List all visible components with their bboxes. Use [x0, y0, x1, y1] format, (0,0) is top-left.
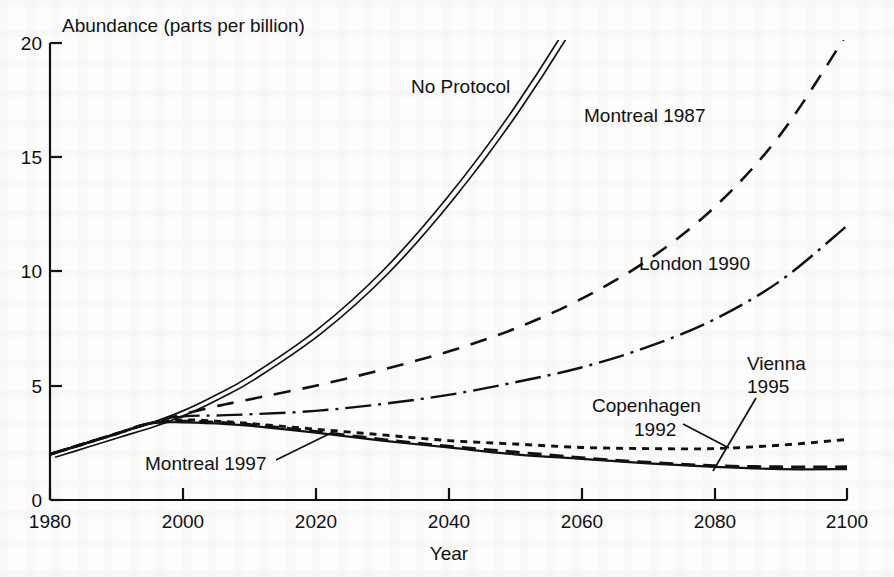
x-tick-label-2060: 2060	[561, 511, 603, 532]
series-line-no-protocol	[50, 0, 847, 454]
series-label-copenhagen-1992-line2: 1992	[634, 419, 676, 440]
y-tick-label-0: 0	[31, 490, 42, 511]
y-tick-label-20: 20	[21, 33, 42, 54]
x-tick-label-2000: 2000	[162, 511, 204, 532]
series-label-vienna-1995-line1: Vienna	[747, 353, 806, 374]
series-label-no-protocol: No Protocol	[411, 76, 510, 97]
y-tick-label-5: 5	[31, 376, 42, 397]
leader-line-montreal-1997	[276, 432, 333, 460]
x-axis-tick-labels: 1980 2000 2020 2040 2060 2080 2100	[29, 511, 868, 532]
x-tick-label-2100: 2100	[826, 511, 868, 532]
leader-line-copenhagen-1992	[683, 424, 729, 448]
series-label-london-1990: London 1990	[639, 253, 750, 274]
x-tick-label-1980: 1980	[29, 511, 71, 532]
series-line-no-protocol-inner	[55, 0, 852, 457]
series-label-vienna-1995-line2: 1995	[747, 376, 789, 397]
x-tick-label-2080: 2080	[694, 511, 736, 532]
x-axis-title: Year	[430, 543, 469, 564]
series-line-copenhagen-1992	[50, 420, 847, 454]
y-tick-label-15: 15	[21, 147, 42, 168]
ozone-abundance-line-chart: 20 15 10 5 0 1980 2000 2020 2040 2060 20…	[0, 0, 894, 577]
leader-line-vienna-1995	[713, 398, 756, 471]
x-axis-ticks	[50, 488, 847, 500]
y-axis-title: Abundance (parts per billion)	[62, 15, 305, 36]
y-tick-label-10: 10	[21, 261, 42, 282]
series-labels: No Protocol Montreal 1987 London 1990 Co…	[145, 76, 806, 474]
chart-page: 20 15 10 5 0 1980 2000 2020 2040 2060 20…	[0, 0, 894, 577]
series-curves	[50, 0, 852, 469]
series-label-copenhagen-1992-line1: Copenhagen	[592, 395, 701, 416]
series-label-montreal-1997: Montreal 1997	[145, 453, 266, 474]
y-axis-tick-labels: 20 15 10 5 0	[21, 33, 42, 511]
x-tick-label-2040: 2040	[428, 511, 470, 532]
x-tick-label-2020: 2020	[295, 511, 337, 532]
y-axis-ticks	[50, 43, 62, 500]
series-label-montreal-1987: Montreal 1987	[584, 105, 705, 126]
